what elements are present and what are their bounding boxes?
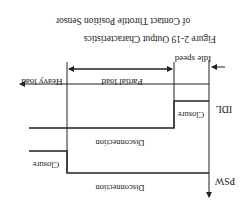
label-heavy-load: Heavy load <box>21 77 63 87</box>
psw-closure: Closure <box>33 160 60 170</box>
idl-disconnection: Disconnection <box>95 138 145 148</box>
label-psw: PSW <box>214 176 235 187</box>
caption-line-1: Figure 2-19 Output Characteristics <box>84 34 216 44</box>
label-idle-speed: Idle speed <box>174 54 211 64</box>
idl-closure: Closure <box>178 110 205 120</box>
diagram-svg: Figure 2-19 Output Characteristics of Co… <box>0 0 246 209</box>
throttle-sensor-diagram: Figure 2-19 Output Characteristics of Co… <box>0 0 246 209</box>
label-partial-load: Partial load <box>101 77 143 87</box>
caption-line-2: of Contact Throttle Position Sensor <box>55 16 190 26</box>
psw-disconnection: Disconnection <box>95 183 145 193</box>
label-idl: IDL <box>216 104 233 115</box>
